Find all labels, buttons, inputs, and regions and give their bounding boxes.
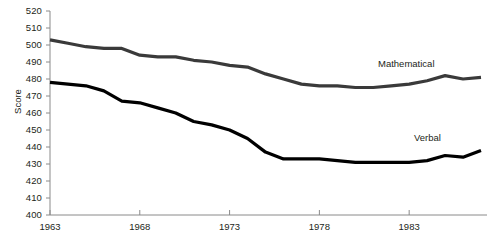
series-line-verbal <box>50 82 481 162</box>
axis-lines <box>50 11 487 215</box>
series-label-verbal: Verbal <box>414 132 441 143</box>
y-axis-ticks <box>46 11 50 215</box>
series-label-mathematical: Mathematical <box>378 58 435 69</box>
line-chart: Score 5205105004904804704604504404304204… <box>0 0 487 248</box>
x-axis-ticks <box>50 210 409 215</box>
plot-area <box>0 0 487 248</box>
